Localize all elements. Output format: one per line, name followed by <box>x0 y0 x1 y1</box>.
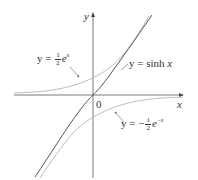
plot-canvas <box>0 0 198 180</box>
neg-half-fraction: 12 <box>145 117 151 132</box>
neg-half-exp-label: y = −12e−x <box>121 117 164 132</box>
sinh-label: y = sinh x <box>129 58 172 69</box>
half-exp-label: y = 12ex <box>37 52 69 67</box>
sinh-decomposition-figure: y x 0 y = 12ex y = sinh x y = −12e−x <box>0 0 198 180</box>
y-axis-label: y <box>84 11 89 22</box>
half-exp-curve <box>14 16 149 93</box>
half-exp-leader <box>70 67 79 77</box>
sinh-leader <box>121 64 128 70</box>
x-axis-label: x <box>177 99 182 110</box>
origin-label: 0 <box>96 99 102 110</box>
half-exp-prefix: y = <box>37 52 54 64</box>
half-fraction: 12 <box>55 52 61 67</box>
